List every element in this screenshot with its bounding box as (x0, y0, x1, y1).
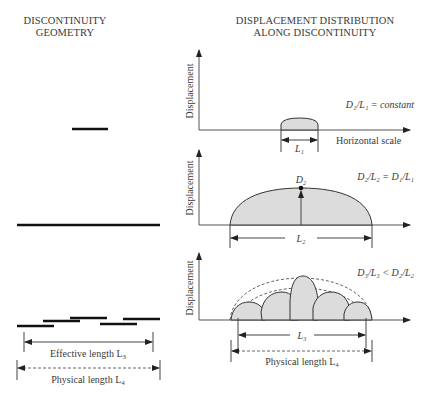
plot-3: Displacement D₃/L₃ < D₂/L₂ L₃ Physical l… (184, 253, 415, 367)
right-title-line1: DISPLACEMENT DISTRIBUTION (236, 15, 395, 26)
peak-point (299, 186, 304, 191)
d2-label: D₂ (295, 174, 307, 185)
y-axis-label: Displacement (184, 63, 195, 118)
y-axis-label: Displacement (184, 260, 195, 315)
l1-label: L₁ (294, 143, 304, 154)
x-axis-label: Horizontal scale (336, 135, 402, 146)
effective-length-label: Effective length L3 (50, 348, 127, 361)
left-title-line1: DISCONTINUITY (24, 15, 107, 26)
left-title-line2: GEOMETRY (36, 27, 95, 38)
ratio-label: D₂/L₂ = D₁/L₁ (356, 171, 414, 182)
ratio-label: D₃/L₃ < D₂/L₂ (356, 267, 414, 278)
right-title-line2: ALONG DISCONTINUITY (254, 27, 377, 38)
plot-2: Displacement D₂/L₂ = D₁/L₁ D₂ L₂ (184, 150, 414, 248)
physical-length-label: Physical length L4 (51, 374, 125, 387)
physical-length-l4-label: Physical length L₄ (265, 356, 339, 367)
l2-label: L₂ (295, 233, 306, 244)
l3-label: L₃ (296, 330, 307, 341)
segmented-discontinuity (17, 318, 160, 326)
discontinuity-diagram: DISCONTINUITY GEOMETRY DISPLACEMENT DIST… (0, 0, 428, 400)
displacement-profile-small (281, 118, 318, 130)
segment-profile-1 (231, 302, 265, 320)
y-axis-label: Displacement (184, 160, 195, 215)
plot-1: Displacement Horizontal scale D₁/L₁ = co… (184, 50, 414, 154)
ratio-label: D₁/L₁ = constant (345, 99, 414, 110)
